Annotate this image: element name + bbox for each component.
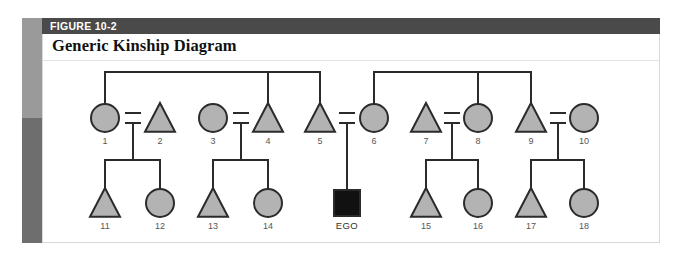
figure-container: FIGURE 10-2 Generic Kinship Diagram 1234… bbox=[0, 0, 673, 262]
node-14-circle[interactable] bbox=[254, 189, 282, 217]
node-label-16: 16 bbox=[458, 221, 498, 231]
node-7-triangle[interactable] bbox=[411, 103, 441, 132]
node-ego-square[interactable] bbox=[334, 190, 360, 216]
node-label-ego: EGO bbox=[327, 220, 367, 231]
node-11-triangle[interactable] bbox=[90, 188, 120, 217]
node-16-circle[interactable] bbox=[464, 189, 492, 217]
node-label-14: 14 bbox=[248, 221, 288, 231]
node-label-9: 9 bbox=[511, 136, 551, 146]
node-label-12: 12 bbox=[140, 221, 180, 231]
node-label-15: 15 bbox=[406, 221, 446, 231]
node-9-triangle[interactable] bbox=[516, 103, 546, 132]
node-1-circle[interactable] bbox=[91, 104, 119, 132]
node-label-4: 4 bbox=[248, 136, 288, 146]
node-2-triangle[interactable] bbox=[145, 103, 175, 132]
node-label-13: 13 bbox=[193, 221, 233, 231]
node-4-triangle[interactable] bbox=[253, 103, 283, 132]
node-label-3: 3 bbox=[193, 136, 233, 146]
node-17-triangle[interactable] bbox=[516, 188, 546, 217]
node-6-circle[interactable] bbox=[360, 104, 388, 132]
node-label-8: 8 bbox=[458, 136, 498, 146]
node-15-triangle[interactable] bbox=[411, 188, 441, 217]
node-label-2: 2 bbox=[140, 136, 180, 146]
node-8-circle[interactable] bbox=[464, 104, 492, 132]
node-3-circle[interactable] bbox=[199, 104, 227, 132]
node-label-17: 17 bbox=[511, 221, 551, 231]
node-label-1: 1 bbox=[85, 136, 125, 146]
node-label-6: 6 bbox=[354, 136, 394, 146]
node-label-10: 10 bbox=[564, 136, 604, 146]
node-12-circle[interactable] bbox=[146, 189, 174, 217]
node-5-triangle[interactable] bbox=[305, 103, 335, 132]
node-label-11: 11 bbox=[85, 221, 125, 231]
node-13-triangle[interactable] bbox=[198, 188, 228, 217]
node-label-5: 5 bbox=[300, 136, 340, 146]
node-18-circle[interactable] bbox=[570, 189, 598, 217]
node-label-18: 18 bbox=[564, 221, 604, 231]
node-label-7: 7 bbox=[406, 136, 446, 146]
node-10-circle[interactable] bbox=[570, 104, 598, 132]
